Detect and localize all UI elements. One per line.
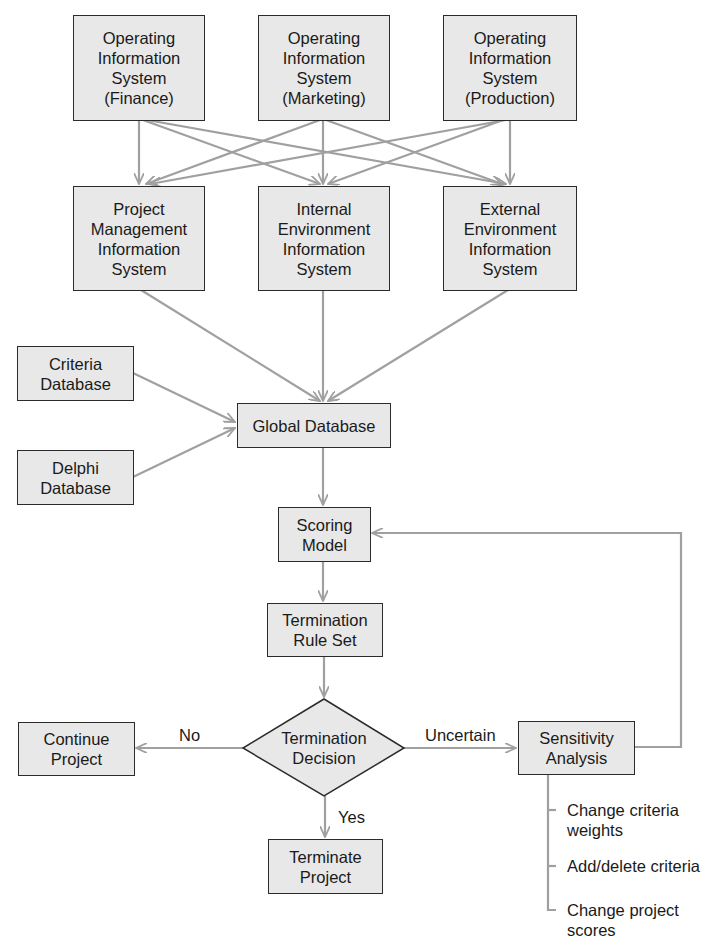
node-label: Operating Information System (Production… — [465, 28, 555, 108]
edge-label-no: No — [179, 725, 200, 745]
node-criteria-database: Criteria Database — [17, 346, 134, 401]
node-project-management-is: Project Management Information System — [73, 186, 205, 291]
node-label: Global Database — [253, 416, 376, 436]
node-label: Operating Information System (Finance) — [98, 28, 181, 108]
sensitivity-option-change-weights: Change criteria weights — [567, 800, 679, 840]
node-external-environment-is: External Environment Information System — [443, 186, 577, 291]
sensitivity-option-add-delete: Add/delete criteria — [567, 856, 700, 876]
node-label: Termination Rule Set — [282, 610, 367, 650]
node-label: Continue Project — [43, 729, 109, 769]
node-continue-project: Continue Project — [18, 722, 135, 776]
node-ois-production: Operating Information System (Production… — [443, 15, 577, 121]
node-delphi-database: Delphi Database — [17, 450, 134, 505]
node-scoring-model: Scoring Model — [278, 507, 371, 562]
node-termination-rule-set: Termination Rule Set — [267, 603, 383, 657]
node-ois-finance: Operating Information System (Finance) — [73, 15, 205, 121]
node-label: Terminate Project — [289, 847, 361, 887]
node-ois-marketing: Operating Information System (Marketing) — [258, 15, 390, 121]
node-label: Operating Information System (Marketing) — [282, 28, 365, 108]
edge-label-uncertain: Uncertain — [425, 725, 496, 745]
node-global-database: Global Database — [237, 403, 391, 448]
node-internal-environment-is: Internal Environment Information System — [258, 186, 390, 291]
node-label: Criteria Database — [40, 354, 111, 394]
node-label: Delphi Database — [40, 458, 111, 498]
node-terminate-project: Terminate Project — [268, 839, 383, 894]
edge-label-yes: Yes — [338, 807, 365, 827]
node-label: Project Management Information System — [91, 199, 187, 279]
node-label: External Environment Information System — [464, 199, 557, 279]
node-sensitivity-analysis: Sensitivity Analysis — [518, 721, 635, 775]
termination-decision-label: Termination Decision — [264, 728, 384, 768]
sensitivity-option-change-scores: Change project scores — [567, 900, 679, 940]
node-label: Internal Environment Information System — [278, 199, 371, 279]
node-label: Scoring Model — [297, 515, 353, 555]
node-label: Sensitivity Analysis — [539, 728, 613, 768]
